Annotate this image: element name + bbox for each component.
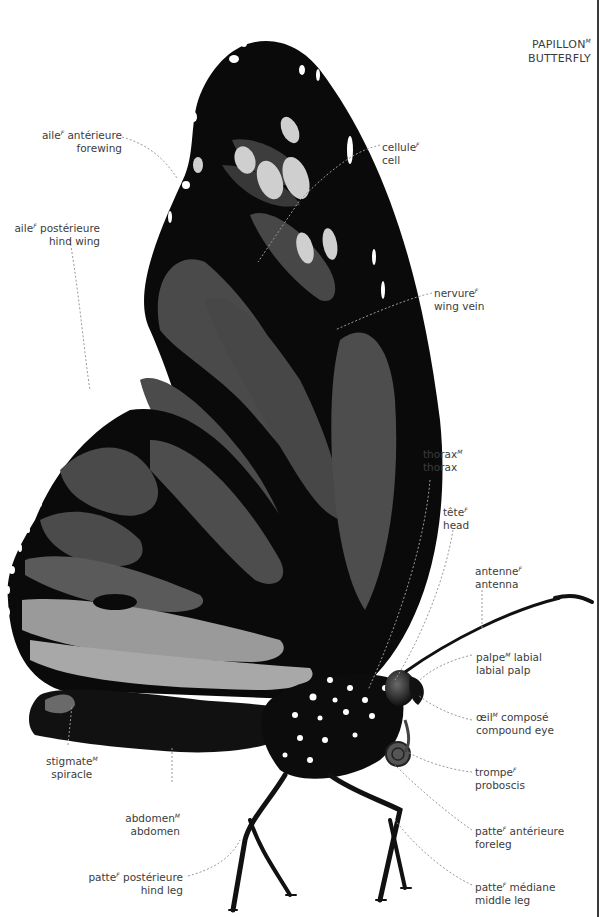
label-hind-wing: aileF postérieure hind wing: [0, 219, 100, 248]
abdomen-shape: [29, 690, 300, 753]
diagram-title: PAPILLONM BUTTERFLY: [528, 34, 591, 66]
label-thorax: thoraxM thorax: [423, 445, 462, 474]
label-proboscis: trompeF proboscis: [475, 763, 525, 792]
label-hind-leg: patteF postérieure hind leg: [83, 868, 183, 897]
label-antenna: antenneF antenna: [475, 562, 522, 591]
label-middle-leg: patteF médiane middle leg: [475, 878, 555, 907]
label-foreleg: patteF antérieure foreleg: [475, 822, 564, 851]
label-head: têteF head: [443, 503, 469, 532]
head-shape: [385, 596, 592, 766]
title-fr: PAPILLON: [532, 38, 586, 51]
title-gender: M: [586, 37, 591, 44]
label-abdomen: abdomenM abdomen: [110, 809, 180, 838]
label-compound-eye: œilM composé compound eye: [476, 708, 554, 737]
label-forewing: aileF antérieure forewing: [29, 126, 122, 155]
label-cell: celluleF cell: [382, 138, 420, 167]
label-spiracle: stigmateM spiracle: [46, 752, 98, 781]
label-wing-vein: nervureF wing vein: [434, 284, 484, 313]
legs: [229, 775, 411, 910]
title-en: BUTTERFLY: [528, 52, 591, 66]
label-labial-palp: palpeM labial labial palp: [476, 648, 542, 677]
